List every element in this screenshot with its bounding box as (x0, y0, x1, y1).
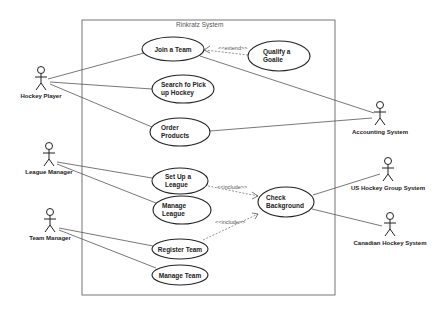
use-case-check-background[interactable]: Check Background (258, 187, 314, 217)
actor-label: US Hockey Group System (351, 185, 425, 191)
use-case-register-team[interactable]: Register Team (152, 239, 208, 259)
assoc-team-manage (59, 230, 156, 268)
actor-label: Hockey Player (20, 93, 62, 99)
assoc-player-order (50, 84, 152, 127)
use-case-label: Register Team (158, 246, 203, 254)
use-case-label: Search fo Pick (161, 81, 206, 88)
stick-figure-icon (35, 67, 47, 91)
actor-league-manager[interactable]: League Manager (25, 143, 73, 176)
actor-us-hockey-group-system[interactable]: US Hockey Group System (351, 158, 425, 192)
actor-team-manager[interactable]: Team Manager (29, 209, 71, 242)
assoc-order-accounting (210, 118, 372, 131)
actor-canadian-hockey-system[interactable]: Canadian Hockey System (353, 213, 426, 247)
use-case-label: Order (161, 124, 179, 131)
assoc-team-register (59, 228, 153, 246)
use-case-diagram: Rinkratz System <<extend>> <<include>> <… (0, 0, 446, 312)
use-case-label: Products (161, 132, 190, 139)
use-case-label: Goalie (263, 56, 283, 63)
use-case-order-products[interactable]: Order Products (150, 118, 210, 146)
stick-figure-icon (374, 102, 386, 126)
use-case-label: League (162, 210, 185, 218)
actor-label: Canadian Hockey System (353, 240, 426, 246)
actor-label: Team Manager (29, 235, 71, 241)
associations (48, 53, 382, 268)
include-arrowhead-setup (252, 192, 258, 199)
extend-label: <<extend>> (218, 45, 247, 51)
actor-label: League Manager (25, 169, 73, 175)
extend-arrowhead (204, 46, 210, 53)
stick-figure-icon (43, 143, 55, 167)
use-case-label: Manage Team (159, 272, 202, 280)
use-case-label: Check (266, 194, 286, 201)
use-case-label: Join a Team (154, 46, 191, 53)
use-case-manage-team[interactable]: Manage Team (152, 265, 208, 285)
stick-figure-icon (44, 209, 56, 233)
use-case-join-a-team[interactable]: Join a Team (142, 37, 204, 61)
stick-figure-icon (384, 213, 396, 237)
include-arrowhead-register (252, 213, 258, 219)
use-case-label: Set Up a (165, 173, 191, 181)
use-case-label: Background (266, 202, 304, 210)
stick-figure-icon (382, 158, 394, 182)
use-case-manage-league[interactable]: Manage League (153, 196, 211, 224)
use-case-qualify-a-goalie[interactable]: Qualify a Goalie (248, 41, 310, 71)
include-label-setup: <<include>> (217, 184, 247, 190)
use-case-label: Manage (162, 202, 187, 210)
system-title: Rinkratz System (176, 21, 223, 29)
actor-label: Accounting System (352, 129, 408, 135)
assoc-check-canadian (312, 209, 382, 226)
assoc-player-join (48, 53, 144, 79)
assoc-player-search (50, 82, 152, 89)
use-case-set-up-a-league[interactable]: Set Up a League (152, 168, 208, 194)
use-case-label: up Hockey (161, 89, 194, 97)
use-case-label: League (165, 181, 188, 189)
include-label-register: <<include>> (215, 219, 245, 225)
include-arrow-register (203, 214, 258, 240)
actor-accounting-system[interactable]: Accounting System (352, 102, 408, 136)
use-case-search-pick-up-hockey[interactable]: Search fo Pick up Hockey (152, 75, 214, 103)
use-case-label: Qualify a (263, 48, 291, 56)
